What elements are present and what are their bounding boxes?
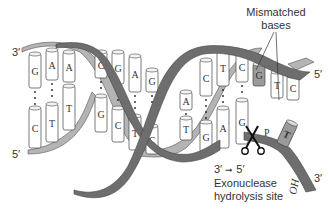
svg-text:G: G xyxy=(255,70,262,81)
svg-text:G: G xyxy=(31,66,38,77)
svg-text:G: G xyxy=(202,132,209,143)
svg-text:T: T xyxy=(220,63,226,74)
base-top: G xyxy=(146,68,158,92)
hydrogen-bond-dot xyxy=(34,103,36,105)
base-top: C xyxy=(200,58,212,96)
direction-label: 3′ ➞ 5′ xyxy=(214,163,245,176)
svg-text:A: A xyxy=(48,60,56,71)
hydrogen-bond-dot xyxy=(205,111,207,113)
exonuclease-label: Exonuclease hydrolysis site xyxy=(214,177,283,202)
base-top: A xyxy=(63,50,75,82)
mismatched-bases-label: Mismatched bases xyxy=(244,6,308,31)
hydrogen-bond-dot xyxy=(241,91,243,93)
base-bottom: C xyxy=(29,106,41,148)
direction-from: 3′ xyxy=(214,163,222,175)
base-bottom: T xyxy=(180,116,192,140)
svg-text:G: G xyxy=(148,76,155,87)
svg-text:A: A xyxy=(182,96,190,107)
mismatched-line1: Mismatched xyxy=(244,6,308,19)
svg-text:T: T xyxy=(66,103,72,114)
svg-text:T: T xyxy=(183,124,189,135)
hydrogen-bond-dot xyxy=(222,95,224,97)
svg-text:T: T xyxy=(49,118,55,129)
svg-text:C: C xyxy=(115,120,122,131)
strand-label-top-right: 5′ xyxy=(314,68,322,81)
hydrogen-bond-dot xyxy=(51,83,53,85)
hydrogen-bond-dot xyxy=(34,97,36,99)
hydrogen-bond-dot xyxy=(241,85,243,87)
svg-text:C: C xyxy=(32,123,39,134)
hydrogen-bond-dot xyxy=(34,91,36,93)
svg-text:T: T xyxy=(274,80,280,91)
hydrogen-bond-dot xyxy=(185,113,187,115)
hydrogen-bond-dot xyxy=(205,99,207,101)
base-top: G xyxy=(29,52,41,88)
svg-text:C: C xyxy=(239,62,246,73)
hydrogen-bond-dot xyxy=(205,117,207,119)
hydrogen-bond-dot xyxy=(100,87,102,89)
hydrogen-bond-dot xyxy=(205,105,207,107)
hydrogen-bond-dot xyxy=(151,95,153,97)
svg-text:A: A xyxy=(219,123,227,134)
base-bottom: T xyxy=(46,102,58,142)
strand-label-bottom-right: 3′ xyxy=(314,172,322,185)
base-bottom: C xyxy=(112,106,124,142)
hydroxyl-label: HO xyxy=(287,177,302,196)
hydrogen-bond-dot xyxy=(134,101,136,103)
svg-text:A: A xyxy=(65,62,73,73)
hydrogen-bond-dot xyxy=(134,95,136,97)
direction-to: 5′ xyxy=(236,163,244,175)
hydrogen-bond-dot xyxy=(51,95,53,97)
strand-label-top-left: 3′ xyxy=(12,46,20,59)
base-top: A xyxy=(129,54,141,92)
excised-base: T xyxy=(276,119,298,148)
exonuclease-line1: Exonuclease xyxy=(214,177,283,190)
svg-text:P: P xyxy=(264,127,270,138)
base-top: A xyxy=(46,48,58,80)
exonuclease-line2: hydrolysis site xyxy=(214,190,283,203)
strand-label-bottom-left: 5′ xyxy=(12,148,20,161)
base-bottom: G xyxy=(95,94,107,132)
svg-text:C: C xyxy=(290,83,297,94)
base-bottom: T xyxy=(63,84,75,130)
svg-text:G: G xyxy=(238,117,245,128)
svg-text:A: A xyxy=(131,69,139,80)
mismatched-line2: bases xyxy=(244,19,308,32)
hydrogen-bond-dot xyxy=(134,107,136,109)
svg-text:C: C xyxy=(203,73,210,84)
hydrogen-bond-dot xyxy=(117,99,119,101)
arrow-right-icon: ➞ xyxy=(225,165,233,175)
hydrogen-bond-dot xyxy=(100,81,102,83)
base-top: A xyxy=(180,90,192,110)
hydrogen-bond-dot xyxy=(222,101,224,103)
hydrogen-bond-dot xyxy=(222,89,224,91)
svg-text:G: G xyxy=(97,109,104,120)
hydrogen-bond-dot xyxy=(51,89,53,91)
